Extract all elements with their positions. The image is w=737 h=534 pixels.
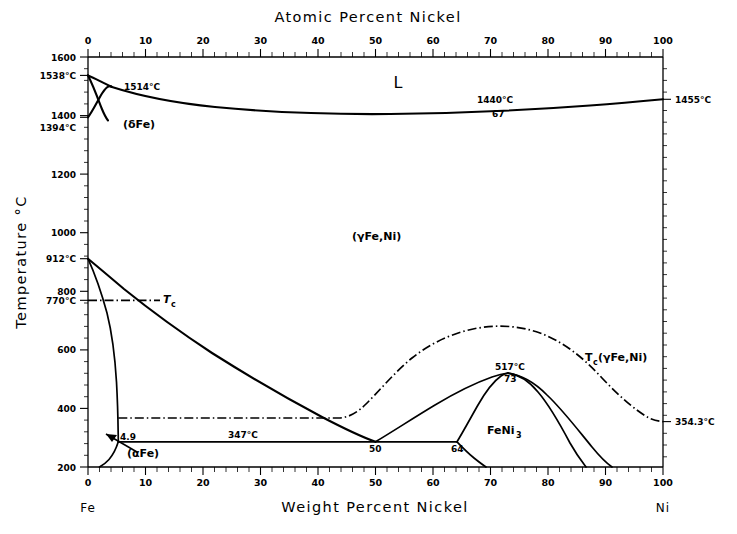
tc-label-right: T c (γFe,Ni) [585,351,647,367]
right-endpoint-ni: Ni [656,501,670,515]
bottom-tick-50: 50 [369,477,383,488]
top-tick-70: 70 [484,35,498,46]
y-tick-1200: 1200 [51,170,76,180]
bottom-tick-10: 10 [139,477,153,488]
bottom-tick-0: 0 [85,477,92,488]
bottom-tick-labels: 0 10 20 30 40 50 60 70 80 90 100 [85,477,674,488]
top-tick-50: 50 [369,35,383,46]
tc-label-right-main: T [585,351,593,364]
y-tick-1400: 1400 [51,111,76,121]
top-axis-ticks [88,49,663,57]
bottom-tick-30: 30 [254,477,268,488]
bottom-tick-70: 70 [484,477,498,488]
annotation-comp-4-9: 4.9 [120,432,136,442]
phase-label-liquid: L [394,73,403,92]
tc-label-left: T c [163,293,176,309]
liquidus-curve [88,75,663,114]
y-right-tick-1455c: 1455°C [675,95,712,105]
y-tick-1000: 1000 [51,228,76,238]
bottom-axis-ticks [88,467,663,475]
y-tick-400: 400 [57,404,76,414]
y-tick-200: 200 [57,463,76,473]
phase-label-feni3-main: FeNi [487,424,515,437]
tc-label-right-rest: (γFe,Ni) [598,351,647,364]
bottom-tick-20: 20 [196,477,210,488]
top-tick-90: 90 [599,35,613,46]
plot-frame [88,57,663,467]
top-tick-0: 0 [85,35,92,46]
bottom-axis-title: Weight Percent Nickel [281,499,468,515]
alpha-fe-lower-boundary [100,442,119,467]
top-tick-60: 60 [426,35,440,46]
top-tick-30: 30 [254,35,268,46]
annotation-comp-50: 50 [369,444,382,454]
left-axis-ticks [80,57,88,467]
left-tick-labels: 1600 1400 1200 1000 800 600 400 200 1538… [40,53,77,473]
top-tick-40: 40 [311,35,325,46]
tc-alpha-fe-curve [88,259,376,442]
y-tick-912c: 912°C [46,254,76,264]
y-tick-770c: 770°C [46,296,76,306]
phase-label-delta-fe: (δFe) [123,118,155,131]
bottom-tick-60: 60 [426,477,440,488]
bottom-tick-90: 90 [599,477,613,488]
tc-gamma-feni-curve [118,326,663,421]
bottom-tick-80: 80 [541,477,555,488]
left-endpoint-fe: Fe [80,501,96,515]
top-tick-10: 10 [139,35,153,46]
tc-label-left-subscript: c [171,300,176,309]
top-axis-title: Atomic Percent Nickel [274,9,461,25]
y-right-tick-354c: 354.3°C [675,417,715,427]
feni3-right-branch-outer [508,373,612,467]
phase-diagram-figure: Atomic Percent Nickel [0,0,737,534]
phase-label-feni3: FeNi 3 [487,424,522,440]
bottom-tick-100: 100 [653,477,673,488]
top-tick-labels: 0 10 20 30 40 50 60 70 80 90 100 [85,35,674,46]
annotation-1514c: 1514°C [124,82,161,92]
y-tick-1394c: 1394°C [40,123,77,133]
annotation-comp-73: 73 [504,374,517,384]
left-axis-title: Temperature °C [13,195,29,329]
annotation-comp-64: 64 [451,444,464,454]
gamma-alpha-boundary [88,259,118,442]
feni3-right-branch-inner [508,373,586,467]
y-tick-1600: 1600 [51,53,76,63]
fe-ni-phase-diagram-svg: Atomic Percent Nickel [0,0,737,534]
top-tick-20: 20 [196,35,210,46]
phase-label-gamma-feni: (γFe,Ni) [352,230,401,243]
bottom-tick-40: 40 [311,477,325,488]
y-tick-600: 600 [57,345,76,355]
annotation-1440c: 1440°C [477,95,514,105]
top-tick-80: 80 [541,35,555,46]
annotation-comp-67: 67 [492,109,505,119]
top-tick-100: 100 [653,35,673,46]
arrowhead-4-9 [106,434,117,442]
annotation-347c: 347°C [228,430,258,440]
annotation-517c: 517°C [495,362,525,372]
phase-label-feni3-subscript: 3 [516,431,522,440]
y-tick-1538c: 1538°C [40,71,77,81]
right-axis-ticks [663,69,671,457]
